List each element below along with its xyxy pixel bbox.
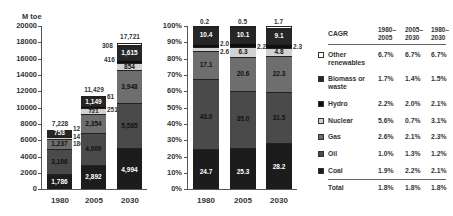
y-tick: 6000 (3, 136, 37, 144)
value-label: 2,892 (81, 173, 106, 181)
cagr-value: 1.0% (378, 150, 404, 157)
cagr-value: 2.1% (431, 167, 453, 174)
cagr-value: 0.7% (405, 117, 431, 124)
legend-label: Hydro (328, 100, 348, 108)
swatch-icon (318, 76, 324, 82)
x-label: 2030 (115, 196, 145, 205)
seg-other (193, 26, 219, 27)
y-tick: 20% (156, 153, 182, 161)
seg-nuclear (193, 47, 219, 51)
cagr-value: 1.8% (405, 184, 431, 191)
cagr-value: 2.2% (405, 167, 431, 174)
swatch-icon (318, 151, 324, 157)
value-label: 20.6 (230, 70, 256, 78)
y-tick: 14000 (3, 71, 37, 79)
legend-label: Nuclear (328, 117, 353, 125)
cagr-value: 2.1% (431, 100, 453, 107)
y-tick: 40% (156, 120, 182, 128)
total-divider (328, 179, 446, 180)
y-tick: 8000 (3, 120, 37, 128)
cagr-value: 1.7% (378, 75, 404, 82)
col-header: 2005– 2030 (405, 26, 423, 42)
value-label: 3,106 (47, 158, 72, 166)
value-label: 24.7 (193, 168, 219, 176)
swatch-icon (318, 134, 324, 140)
y-tick: 30% (156, 136, 182, 144)
cagr-value: 1.5% (431, 75, 453, 82)
y-tick: 90% (156, 38, 182, 46)
value-label: 3,948 (117, 83, 142, 91)
y-tick: 2000 (3, 169, 37, 177)
y-tick: 18000 (3, 38, 37, 46)
seg-other (81, 96, 106, 97)
cagr-value: 2.2% (378, 100, 404, 107)
value-label: 1,149 (81, 98, 106, 106)
cagr-value: 1.9% (378, 167, 404, 174)
value-label: 753 (47, 129, 72, 137)
value-label: 2.6 (220, 48, 229, 55)
legend-label: Gas (328, 133, 341, 141)
value-label: 43.0 (193, 113, 219, 121)
value-label: 9.1 (266, 32, 292, 40)
y-tick: 50% (156, 104, 182, 112)
header-divider (328, 44, 446, 45)
value-label: 308 (102, 42, 113, 49)
x-label: 1980 (191, 196, 221, 205)
legend-label: Total (328, 184, 344, 192)
cagr-value: 2.6% (378, 133, 404, 140)
y-tick: 20000 (3, 22, 37, 30)
y-tick: 16000 (3, 55, 37, 63)
value-label: 1.7 (274, 18, 283, 25)
cagr-value: 1.8% (378, 184, 404, 191)
value-label: 1,237 (47, 140, 72, 148)
value-label: 10.4 (193, 31, 219, 39)
col-header: 1980– 2030 (431, 26, 449, 42)
seg-nuclear (47, 137, 72, 139)
total-label: 7,228 (40, 120, 80, 127)
value-label: 31.5 (266, 114, 292, 122)
seg-hydro (230, 43, 256, 47)
x-axis (187, 189, 297, 190)
y-tick: 0% (156, 185, 182, 193)
value-label: 28.2 (266, 163, 292, 171)
cagr-value: 6.7% (431, 51, 453, 58)
value-label: 2.0 (220, 40, 229, 47)
cagr-value: 2.1% (405, 133, 431, 140)
x-axis (41, 189, 147, 190)
col-header: 1980– 2005 (378, 26, 396, 42)
cagr-header: CAGR (328, 30, 348, 37)
value-label: 4.8 (266, 48, 292, 56)
seg-other (266, 26, 292, 29)
value-label: 0.2 (200, 18, 209, 25)
value-label: 4,000 (81, 145, 106, 153)
unit-label: M toe (22, 12, 42, 21)
total-label: 17,721 (110, 33, 150, 40)
value-label: 2,354 (81, 120, 106, 128)
x-label: 2005 (228, 196, 258, 205)
cagr-value: 2.0% (405, 100, 431, 107)
cagr-value: 1.3% (405, 150, 431, 157)
seg-other (230, 26, 256, 27)
legend-label: Oil (328, 150, 337, 158)
cagr-value: 5.6% (378, 117, 404, 124)
cagr-value: 6.7% (378, 51, 404, 58)
cagr-value: 2.3% (431, 133, 453, 140)
y-tick: 4000 (3, 153, 37, 161)
x-label: 2030 (264, 196, 294, 205)
y-tick: 80% (156, 55, 182, 63)
value-label: 854 (117, 63, 142, 71)
value-label: 35.0 (230, 115, 256, 123)
legend-label: Biomass or waste (328, 75, 365, 91)
y-axis (41, 26, 42, 190)
y-tick: 10% (156, 169, 182, 177)
y-tick: 10000 (3, 104, 37, 112)
swatch-icon (318, 101, 324, 107)
value-label: 5,585 (117, 122, 142, 130)
cagr-value: 1.2% (431, 150, 453, 157)
value-label: 416 (104, 56, 115, 63)
y-tick: 100% (156, 22, 182, 30)
cagr-value: 1.4% (405, 75, 431, 82)
y-tick: 70% (156, 71, 182, 79)
cagr-value: 1.8% (431, 184, 453, 191)
value-label: 25.3 (230, 168, 256, 176)
